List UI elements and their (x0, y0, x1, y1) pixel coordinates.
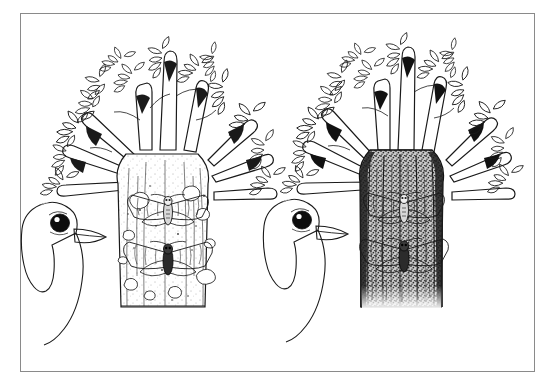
tree-dark-trunk (359, 150, 443, 310)
figure-root: Peppered moth camouflage on lichen-cover… (0, 0, 550, 388)
bird-head-left (21, 201, 106, 345)
illustration-canvas (0, 0, 550, 388)
panel-right-polluted (263, 33, 523, 342)
panel-left-unpolluted (21, 37, 285, 345)
tree-light-trunk (117, 154, 215, 307)
bird-head-right (263, 198, 348, 342)
